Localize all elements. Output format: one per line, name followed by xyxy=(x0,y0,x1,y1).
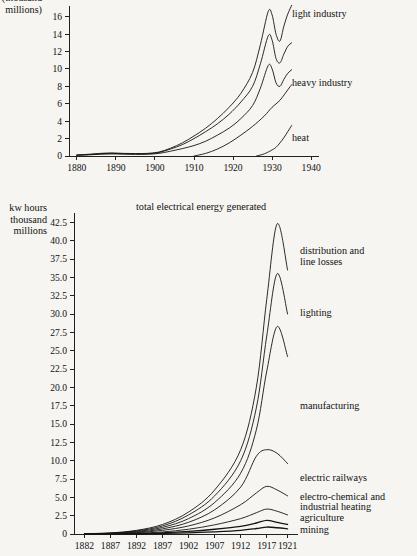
x-tick-label-top-4: 1920 xyxy=(223,162,242,173)
y-tick-label-top-7: 14 xyxy=(52,29,62,40)
y-tick-label-top-0: 0 xyxy=(57,150,62,161)
series-label-top-2: heat xyxy=(292,132,309,143)
y-tick-label-bottom-15: 37.5 xyxy=(50,253,67,264)
x-tick-label-bottom-0: 1882 xyxy=(75,540,94,551)
series-label-bottom-7: agriculture xyxy=(300,512,345,523)
series-label-bottom-4: electric railways xyxy=(300,472,367,483)
chart-bottom: 02.55.07.510.012.515.017.520.022.525.027… xyxy=(9,201,385,551)
y-tick-label-top-8: 16 xyxy=(52,11,62,22)
y-tick-label-bottom-3: 7.5 xyxy=(55,473,67,484)
y-tick-label-bottom-17: 42.5 xyxy=(50,217,67,228)
y-tick-label-top-5: 10 xyxy=(52,63,62,74)
chart-title-bottom: total electrical energy generated xyxy=(136,201,266,212)
x-tick-label-top-5: 1930 xyxy=(263,162,282,173)
series-line-electric-railways xyxy=(84,486,287,534)
y-tick-label-bottom-7: 17.5 xyxy=(50,400,67,411)
y-tick-label-bottom-13: 32.5 xyxy=(50,290,67,301)
x-tick-label-bottom-8: 1921 xyxy=(278,540,297,551)
y-tick-label-top-2: 4 xyxy=(57,116,62,127)
y-tick-label-top-4: 8 xyxy=(57,81,62,92)
y-tick-label-bottom-9: 22.5 xyxy=(50,363,67,374)
y-tick-label-bottom-12: 30.0 xyxy=(50,308,67,319)
series-label-bottom-6: industrial heating xyxy=(300,501,371,512)
y-axis-title-bottom-2: millions xyxy=(14,225,47,236)
series-label-bottom-0: distribution and xyxy=(300,245,364,256)
series-label-bottom-2: lighting xyxy=(300,307,332,318)
y-tick-label-bottom-6: 15.0 xyxy=(50,418,67,429)
x-tick-label-bottom-3: 1897 xyxy=(153,540,172,551)
series-line-agriculture xyxy=(84,520,287,534)
series-line-electro-chemical-and-industrial-heating xyxy=(84,509,287,534)
series-line-heavy-industry xyxy=(77,34,292,155)
y-axis-title-top-1: millions) xyxy=(5,4,42,16)
x-tick-label-top-1: 1890 xyxy=(106,162,125,173)
series-line-heat-lower xyxy=(194,85,292,156)
series-line-total-electrical-energy-generated xyxy=(84,223,287,533)
y-axis-title-bottom-0: kw hours xyxy=(9,202,47,213)
series-label-bottom-3: manufacturing xyxy=(300,400,359,411)
y-tick-label-bottom-14: 35.0 xyxy=(50,272,67,283)
y-tick-label-bottom-5: 12.5 xyxy=(50,437,67,448)
series-line-lighting xyxy=(84,326,287,533)
series-label-bottom-1: line losses xyxy=(300,256,342,267)
series-line-heat-curve xyxy=(257,126,292,156)
chart-top: 0246810121416188018901900191019201930194… xyxy=(2,0,353,173)
y-tick-label-top-6: 12 xyxy=(52,46,62,57)
x-tick-label-bottom-6: 1912 xyxy=(231,540,250,551)
y-tick-label-bottom-1: 2.5 xyxy=(55,510,67,521)
series-line-light-industry xyxy=(77,5,292,155)
y-tick-label-top-3: 6 xyxy=(57,98,62,109)
figure-root: 0246810121416188018901900191019201930194… xyxy=(0,0,417,556)
x-tick-label-bottom-5: 1907 xyxy=(205,540,224,551)
x-tick-label-bottom-7: 1917 xyxy=(257,540,276,551)
x-tick-label-top-2: 1900 xyxy=(145,162,164,173)
x-tick-label-top-3: 1910 xyxy=(184,162,203,173)
y-axis-title-bottom-1: thousand xyxy=(10,214,47,225)
y-tick-label-bottom-16: 40.0 xyxy=(50,235,67,246)
y-tick-label-bottom-11: 27.5 xyxy=(50,327,67,338)
series-label-bottom-8: mining xyxy=(300,524,329,535)
y-tick-label-bottom-0: 0 xyxy=(62,528,67,539)
x-tick-label-bottom-2: 1892 xyxy=(127,540,146,551)
series-line-distribution-and-line-losses xyxy=(84,273,287,533)
y-tick-label-bottom-10: 25.0 xyxy=(50,345,67,356)
y-tick-label-bottom-4: 10.0 xyxy=(50,455,67,466)
x-tick-label-top-6: 1940 xyxy=(302,162,321,173)
charts-canvas: 0246810121416188018901900191019201930194… xyxy=(0,0,417,556)
series-line-manufacturing xyxy=(84,450,287,534)
y-tick-label-bottom-8: 20.0 xyxy=(50,382,67,393)
y-tick-label-top-1: 2 xyxy=(57,133,62,144)
series-label-top-0: light industry xyxy=(292,8,348,19)
y-tick-label-bottom-2: 5.0 xyxy=(55,492,67,503)
x-tick-label-top-0: 1880 xyxy=(67,162,86,173)
x-tick-label-bottom-4: 1902 xyxy=(179,540,198,551)
x-tick-label-bottom-1: 1887 xyxy=(101,540,120,551)
series-label-top-1: heavy industry xyxy=(292,77,353,88)
